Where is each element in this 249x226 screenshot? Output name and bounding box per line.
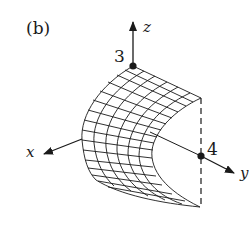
- surface-mesh: [82, 66, 201, 207]
- y-intercept-point: [197, 152, 204, 159]
- y-axis-label: y: [240, 166, 248, 181]
- x-axis-label: x: [26, 145, 34, 160]
- panel-label: (b): [26, 20, 50, 37]
- z-value-label: 3: [114, 48, 125, 65]
- y-value-label: 4: [207, 141, 218, 158]
- z-axis-label: z: [143, 20, 151, 35]
- z-intercept-point: [129, 62, 136, 69]
- y-axis-inner: [150, 132, 201, 156]
- diagram-canvas: (b) z x y 3 4: [0, 0, 249, 226]
- x-axis: [44, 139, 82, 154]
